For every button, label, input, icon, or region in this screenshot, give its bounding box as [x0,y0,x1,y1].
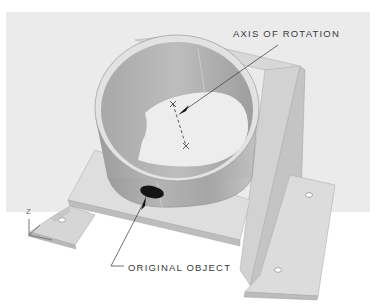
bolt-hole [275,268,282,273]
cylinder-collar [95,35,259,208]
axis-of-rotation-label: AXIS OF ROTATION [233,29,340,39]
ucs-z-label: Z [26,207,31,216]
cad-illustration [0,0,376,307]
bolt-hole [59,218,66,223]
bolt-hole [306,193,313,198]
original-object-label: ORIGINAL OBJECT [128,263,231,273]
